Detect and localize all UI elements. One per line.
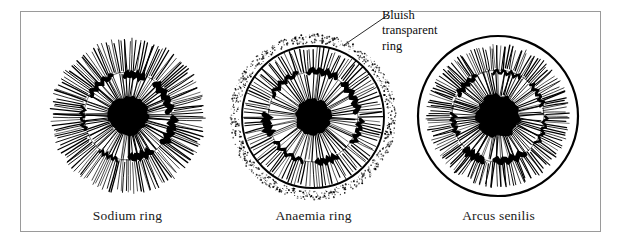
panel-sodium-ring: Sodium ring bbox=[35, 12, 220, 233]
annotation-bluish-transparent-ring: Bluish transparent ring bbox=[382, 8, 492, 54]
panel-caption-sodium-ring: Sodium ring bbox=[35, 208, 220, 224]
figure-root: Sodium ring Anaemia ring Arcus senilis B… bbox=[0, 0, 621, 249]
iris-diagram-sodium-ring bbox=[35, 12, 220, 208]
figure-frame: Sodium ring Anaemia ring Arcus senilis bbox=[20, 11, 601, 232]
annotation-line-3: ring bbox=[382, 39, 492, 54]
annotation-line-1: Bluish bbox=[382, 8, 492, 23]
annotation-line-2: transparent bbox=[382, 23, 492, 38]
panel-caption-arcus-senilis: Arcus senilis bbox=[406, 208, 591, 224]
panel-caption-anaemia-ring: Anaemia ring bbox=[221, 208, 406, 224]
